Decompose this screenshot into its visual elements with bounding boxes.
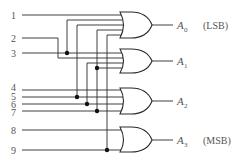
input-label-8: 8 xyxy=(11,125,16,136)
msb-note: (MSB) xyxy=(203,135,231,147)
encoder-diagram: 1 2 3 4 5 6 7 8 9 xyxy=(0,0,245,162)
junction-dot xyxy=(95,66,99,70)
output-label-a0: A 0 xyxy=(176,19,188,34)
wire-input-9-branch xyxy=(107,35,123,150)
junction-dot xyxy=(95,109,99,113)
junction-dot xyxy=(105,148,109,152)
output-label-a3: A 3 xyxy=(176,134,188,149)
input-label-1: 1 xyxy=(11,10,16,21)
or-gate-a1 xyxy=(120,49,152,73)
wire-input-6-branch xyxy=(87,63,125,104)
svg-text:0: 0 xyxy=(184,26,188,34)
svg-text:3: 3 xyxy=(184,141,188,149)
lsb-note: (LSB) xyxy=(203,20,228,32)
input-label-7: 7 xyxy=(11,107,16,118)
output-label-a1: A 1 xyxy=(176,55,188,70)
junction-dot xyxy=(75,95,79,99)
or-gate-a3 xyxy=(120,127,152,152)
svg-text:1: 1 xyxy=(184,62,188,70)
input-label-2: 2 xyxy=(11,33,16,44)
wire-input-2 xyxy=(22,38,124,58)
or-gate-a0 xyxy=(120,12,152,38)
junction-dot xyxy=(65,51,69,55)
wire-input-7-branch xyxy=(97,30,124,111)
wire-input-5-branch xyxy=(77,25,124,97)
or-gate-a2 xyxy=(120,88,152,114)
svg-text:A: A xyxy=(176,55,184,67)
svg-text:2: 2 xyxy=(184,102,188,110)
input-label-3: 3 xyxy=(11,48,16,59)
svg-text:A: A xyxy=(176,19,184,31)
svg-text:A: A xyxy=(176,95,184,107)
junction-dot xyxy=(85,102,89,106)
svg-text:A: A xyxy=(176,134,184,146)
output-label-a2: A 2 xyxy=(176,95,188,110)
input-label-9: 9 xyxy=(11,145,16,156)
